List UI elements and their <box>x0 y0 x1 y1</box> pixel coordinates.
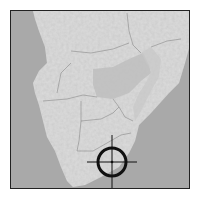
southern-africa-map <box>11 11 190 189</box>
map-frame <box>10 10 190 189</box>
